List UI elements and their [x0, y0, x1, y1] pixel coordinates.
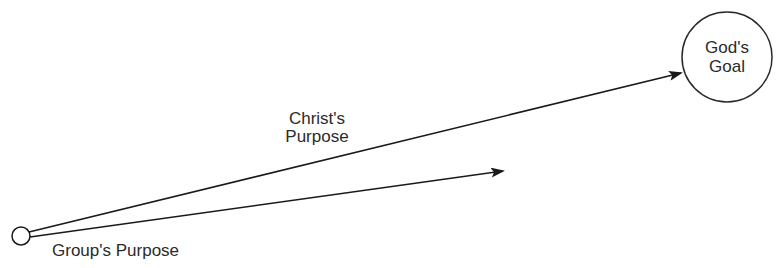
- christs-purpose-line1: Christ's: [272, 110, 362, 128]
- origin-node: [12, 227, 30, 245]
- christs-purpose-arrow: [29, 73, 681, 232]
- goal-label: God's Goal: [697, 38, 757, 76]
- diagram-canvas: [0, 0, 779, 268]
- christs-purpose-label: Christ's Purpose: [272, 110, 362, 146]
- groups-purpose-arrow: [30, 171, 503, 237]
- groups-purpose-label: Group's Purpose: [52, 241, 179, 260]
- goal-label-line1: God's: [697, 38, 757, 57]
- goal-label-line2: Goal: [697, 57, 757, 76]
- christs-purpose-line2: Purpose: [272, 128, 362, 146]
